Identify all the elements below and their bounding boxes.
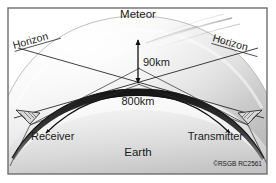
label-altitude-90km: 90km (143, 56, 170, 68)
meteor-scatter-diagram: Meteor Horizon Horizon 90km 800km Receiv… (0, 0, 276, 183)
label-receiver: Receiver (31, 130, 75, 142)
label-transmitter: Transmitter (188, 130, 244, 142)
label-distance-800km: 800km (121, 95, 154, 107)
credit-text: ©RSGB RC2561 (213, 160, 262, 167)
label-earth: Earth (124, 146, 152, 158)
label-meteor: Meteor (120, 8, 156, 20)
